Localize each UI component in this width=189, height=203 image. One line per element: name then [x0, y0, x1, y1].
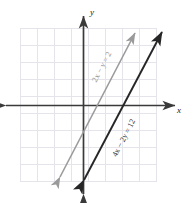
line1-label: 2x − y = 2	[90, 50, 113, 83]
x-axis-label: x	[176, 105, 181, 115]
line1-label-group: 2x − y = 2	[90, 50, 113, 83]
graph-figure: y x 2x − y = 2 4x − 2y = 12	[0, 0, 189, 203]
coordinate-plane-svg: y x 2x − y = 2 4x − 2y = 12	[0, 0, 189, 203]
y-axis-label: y	[89, 7, 94, 17]
